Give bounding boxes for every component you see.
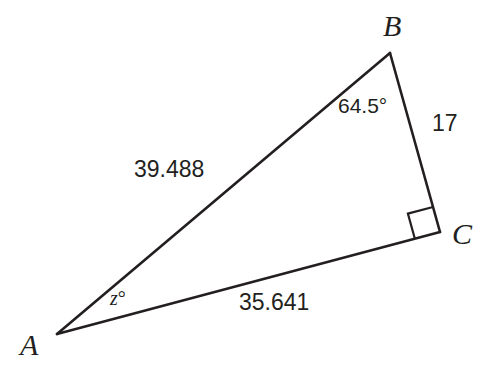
- side-length-label-ac: 35.641: [239, 291, 309, 314]
- angle-label-a: z°: [110, 288, 126, 308]
- triangle-figure: A B C 39.488 35.641 17 64.5° z°: [0, 0, 501, 370]
- triangle-side-bc: [390, 53, 440, 232]
- degree-symbol-a: °: [118, 287, 126, 309]
- vertex-label-a: A: [20, 330, 38, 360]
- side-length-label-bc: 17: [432, 112, 458, 135]
- triangle-side-ac: [57, 232, 440, 334]
- vertex-label-c: C: [452, 219, 472, 249]
- angle-label-b: 64.5°: [338, 95, 387, 116]
- vertex-label-b: B: [383, 11, 401, 41]
- angle-variable-a: z: [110, 287, 118, 309]
- side-length-label-ab: 39.488: [134, 158, 204, 181]
